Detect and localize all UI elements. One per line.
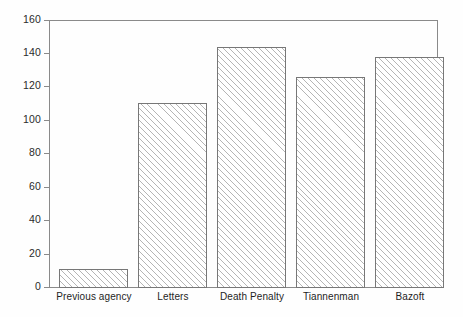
bar-bazoft[interactable] [375, 57, 444, 288]
bar-death-penalty[interactable] [217, 47, 286, 288]
bars-layer [0, 0, 463, 317]
bar-chart: 160 140 120 100 80 60 40 20 [0, 0, 463, 317]
bar-letters[interactable] [138, 103, 207, 288]
x-axis-label-bazoft: Bazoft [365, 291, 455, 303]
bar-previous-agency[interactable] [59, 269, 128, 288]
bar-tiannenman[interactable] [296, 77, 365, 288]
